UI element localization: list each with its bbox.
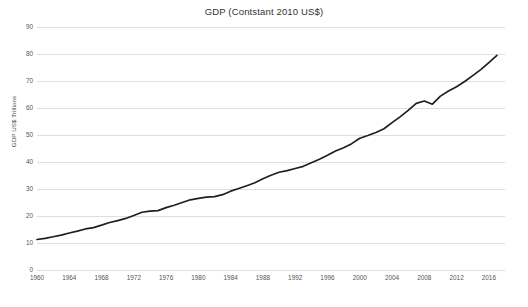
y-axis-tick-label: 30 <box>3 186 33 192</box>
gdp-series-line <box>37 55 497 239</box>
y-axis-tick-label: 10 <box>3 240 33 246</box>
y-axis-tick-label: 80 <box>3 51 33 57</box>
x-axis-tick-label: 2016 <box>469 275 509 281</box>
y-axis-tick-label: 60 <box>3 105 33 111</box>
x-axis-tick-labels: 1960196419681972197619801984198819921996… <box>37 275 505 291</box>
y-axis-tick-label: 0 <box>3 267 33 273</box>
y-axis-tick-label: 40 <box>3 159 33 165</box>
gdp-line-chart: GDP (Contstant 2010 US$) GDP US$ Trillio… <box>0 0 528 307</box>
y-axis-tick-labels: 0102030405060708090 <box>0 27 33 270</box>
y-axis-tick-label: 50 <box>3 132 33 138</box>
y-axis-tick-label: 70 <box>3 78 33 84</box>
chart-title: GDP (Contstant 2010 US$) <box>0 6 528 17</box>
y-axis-tick-label: 90 <box>3 24 33 30</box>
series-layer <box>37 27 505 270</box>
y-axis-tick-label: 20 <box>3 213 33 219</box>
gridline <box>37 270 505 271</box>
plot-area <box>37 27 505 270</box>
